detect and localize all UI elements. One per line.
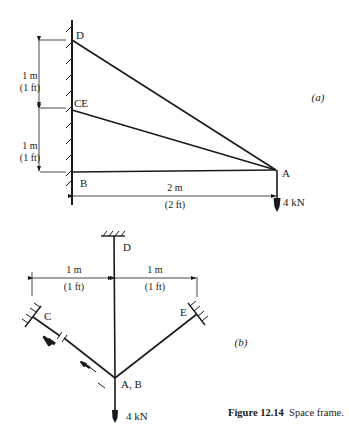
figure-number: Figure 12.14 — [228, 407, 284, 418]
dim-left-si-b: 1 m — [66, 264, 82, 275]
panel-b: D C E A, B 4 kN 1 m (1 ft) 1 m (1 ft) (b… — [22, 231, 248, 423]
member-BA — [72, 170, 276, 172]
figure-title: Space frame. — [289, 407, 344, 418]
node-label-D-b: D — [123, 241, 131, 253]
node-label-CE-a: CE — [74, 97, 88, 109]
wall-support-a — [66, 20, 72, 205]
node-label-D-a: D — [76, 29, 84, 41]
panel-label-b: (b) — [235, 336, 248, 349]
member-CEA — [72, 110, 276, 170]
node-label-AB-b: A, B — [121, 378, 142, 390]
node-label-C-b: C — [44, 310, 51, 322]
members-b — [33, 236, 197, 412]
support-D-b — [101, 231, 125, 236]
dim-left-imperial-b: (1 ft) — [64, 281, 84, 293]
load-arrow-icon-b — [112, 410, 118, 423]
dim-upper-imperial-a: (1 ft) — [20, 82, 40, 94]
load-label-a: 4 kN — [283, 196, 305, 208]
member-CAB-segment-2 — [64, 338, 115, 378]
panel-label-a: (a) — [312, 91, 325, 104]
panel-a: D CE B A 4 kN 1 m (1 ft) 1 m (1 ft) 2 m … — [20, 20, 325, 212]
load-label-b: 4 kN — [126, 410, 148, 422]
dim-upper-si-a: 1 m — [22, 70, 38, 81]
member-EAB — [115, 314, 197, 378]
dim-lower-imperial-a: (1 ft) — [20, 152, 40, 164]
member-DAB — [114, 236, 115, 378]
dim-horizontal-imperial-a: (2 ft) — [165, 199, 185, 211]
break-marks-b — [57, 332, 67, 342]
dim-right-imperial-b: (1 ft) — [145, 281, 165, 293]
figure-caption: Figure 12.14 Space frame. — [228, 407, 344, 418]
space-frame-figure: D CE B A 4 kN 1 m (1 ft) 1 m (1 ft) 2 m … — [0, 0, 349, 445]
node-label-B-a: B — [80, 177, 87, 189]
load-arrow-icon-a — [274, 198, 281, 212]
support-C-b — [22, 303, 41, 327]
support-E-b — [188, 301, 208, 325]
member-DA — [72, 40, 276, 170]
node-label-A-a: A — [282, 167, 290, 179]
dim-lower-si-a: 1 m — [22, 140, 38, 151]
dim-right-si-b: 1 m — [147, 264, 163, 275]
dimension-vertical-a — [38, 40, 66, 172]
node-label-E-b: E — [180, 306, 187, 318]
dim-horizontal-si-a: 2 m — [167, 182, 183, 193]
